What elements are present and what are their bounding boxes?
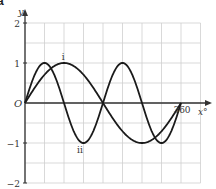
trig-graph: 21−1−2360yx°Oiii xyxy=(0,0,216,189)
origin-label: O xyxy=(14,98,22,109)
x-axis-arrow-icon xyxy=(205,100,212,106)
curve-label-i: i xyxy=(62,52,65,62)
y-tick-label: −1 xyxy=(7,139,20,149)
y-tick-label: 1 xyxy=(14,59,20,69)
y-axis-label: y xyxy=(17,6,24,17)
x-tick-label: 360 xyxy=(173,105,190,115)
axes xyxy=(22,9,212,183)
labels: 21−1−2360yx°Oiii xyxy=(7,6,208,189)
y-tick-label: 2 xyxy=(14,19,20,29)
y-tick-label: −2 xyxy=(7,179,20,189)
curve-label-ii: ii xyxy=(77,145,83,155)
x-axis-label: x° xyxy=(198,107,208,117)
